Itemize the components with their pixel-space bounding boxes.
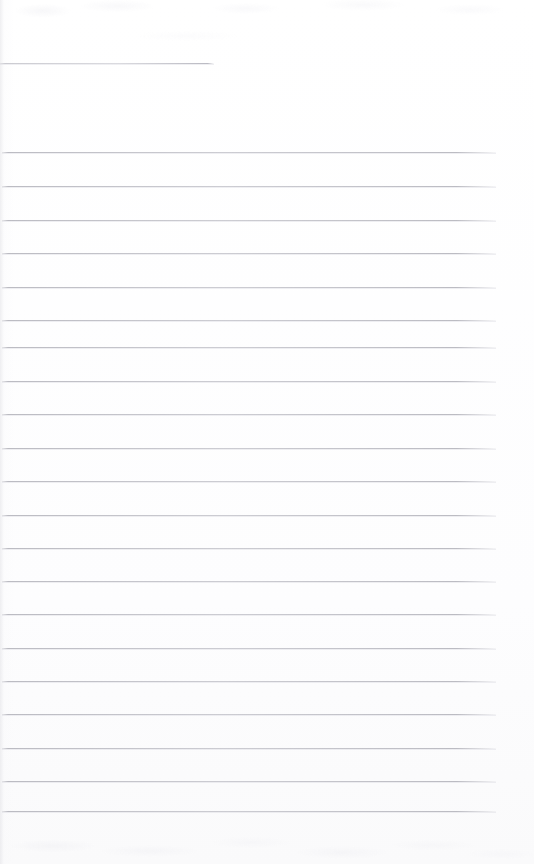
ruled-line: [2, 681, 496, 682]
ruled-line: [2, 515, 496, 516]
ruled-line: [2, 152, 496, 153]
ruled-line: [2, 811, 496, 812]
ruled-line: [2, 448, 496, 449]
ruled-line: [2, 320, 496, 321]
ruled-line: [2, 220, 496, 221]
ruled-line: [2, 381, 496, 382]
header-rule: [0, 63, 214, 64]
ruled-line: [2, 414, 496, 415]
ruled-line: [2, 548, 496, 549]
ruled-line: [2, 581, 496, 582]
ruled-line: [2, 648, 496, 649]
ruled-line: [2, 714, 496, 715]
ruled-line: [2, 347, 496, 348]
ruled-line: [2, 287, 496, 288]
scanned-page: [0, 0, 534, 864]
ruled-line: [2, 186, 496, 187]
ruled-line: [2, 253, 496, 254]
paper-background: [0, 0, 534, 864]
ruled-line: [2, 614, 496, 615]
ruled-line: [2, 481, 496, 482]
ruled-line: [2, 781, 496, 782]
ruled-line: [2, 748, 496, 749]
